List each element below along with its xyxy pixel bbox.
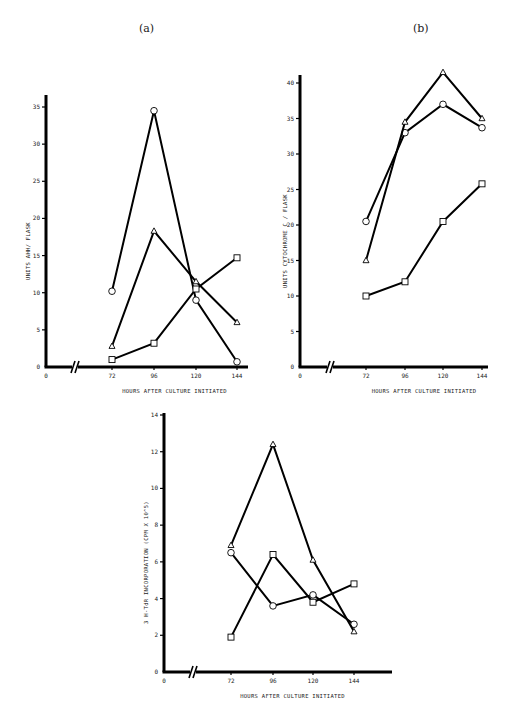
x-tick-label: 0: [298, 372, 302, 379]
square-marker-icon: [193, 286, 199, 292]
figure-canvas: 0510152025303507296120144HOURS AFTER CUL…: [0, 0, 508, 724]
x-axis-title: HOURS AFTER CULTURE INITIATED: [122, 388, 227, 394]
y-tick-label: 10: [287, 292, 295, 299]
y-tick-label: 8: [154, 521, 158, 528]
y-tick-label: 35: [33, 103, 41, 110]
circle-marker-icon: [234, 359, 241, 366]
square-marker-icon: [479, 181, 485, 187]
y-tick-label: 5: [290, 328, 294, 335]
y-tick-label: 12: [151, 448, 159, 455]
triangle-marker-icon: [440, 69, 446, 74]
y-tick-label: 0: [36, 363, 40, 370]
triangle-marker-icon: [310, 557, 316, 562]
x-tick-label: 72: [227, 677, 235, 684]
y-tick-label: 6: [154, 558, 158, 565]
x-axis-title: HOURS AFTER CULTURE INITIATED: [372, 388, 477, 394]
y-tick-label: 5: [36, 326, 40, 333]
square-marker-icon: [310, 599, 316, 605]
y-tick-label: 0: [290, 363, 294, 370]
triangle-marker-icon: [270, 441, 276, 446]
circle-marker-icon: [151, 107, 158, 114]
y-axis-title: UNITS AHH/ FLASK: [25, 222, 31, 280]
triangle-marker-icon: [228, 542, 234, 547]
square-marker-icon: [351, 581, 357, 587]
y-tick-label: 14: [151, 411, 159, 418]
y-tick-label: 10: [151, 484, 159, 491]
y-tick-label: 10: [33, 289, 41, 296]
y-tick-label: 25: [287, 186, 295, 193]
circle-marker-icon: [440, 101, 447, 108]
y-tick-label: 2: [154, 631, 158, 638]
chart-panel-2: 051015202530354007296120144HOURS AFTER C…: [282, 69, 488, 394]
square-marker-icon: [402, 279, 408, 285]
x-tick-label: 144: [477, 372, 488, 379]
y-axis-title: 3 H-TdR INCORPORATION (CPM X 10^5): [143, 501, 149, 624]
square-marker-icon: [109, 357, 115, 363]
x-tick-label: 120: [308, 677, 319, 684]
y-tick-label: 30: [287, 150, 295, 157]
x-tick-label: 96: [269, 677, 277, 684]
y-tick-label: 30: [33, 140, 41, 147]
x-axis-title: HOURS AFTER CULTURE INITIATED: [240, 693, 345, 699]
x-tick-label: 72: [362, 372, 370, 379]
circle-marker-icon: [270, 603, 277, 610]
series-line-circle: [231, 553, 354, 625]
y-tick-label: 35: [287, 115, 295, 122]
series-line-triangle: [231, 444, 354, 631]
x-tick-label: 0: [162, 677, 166, 684]
series-line-square: [112, 258, 237, 360]
series-line-circle: [112, 111, 237, 362]
triangle-marker-icon: [109, 343, 115, 348]
x-tick-label: 144: [232, 372, 243, 379]
square-marker-icon: [228, 634, 234, 640]
triangle-marker-icon: [151, 228, 157, 233]
x-tick-label: 120: [438, 372, 449, 379]
series-line-circle: [366, 104, 482, 221]
circle-marker-icon: [363, 218, 370, 225]
y-axis-title: UNITS CYTOCHROME C / FLASK: [282, 194, 288, 288]
y-tick-label: 4: [154, 595, 158, 602]
chart-panel-1: 0510152025303507296120144HOURS AFTER CUL…: [25, 95, 248, 394]
y-tick-label: 0: [154, 668, 158, 675]
circle-marker-icon: [479, 124, 486, 131]
x-tick-label: 72: [108, 372, 116, 379]
x-tick-label: 0: [44, 372, 48, 379]
series-line-triangle: [112, 231, 237, 346]
y-tick-label: 40: [287, 79, 295, 86]
triangle-marker-icon: [363, 257, 369, 262]
x-tick-label: 144: [349, 677, 360, 684]
circle-marker-icon: [193, 297, 200, 304]
circle-marker-icon: [310, 592, 317, 599]
series-line-square: [231, 555, 354, 638]
square-marker-icon: [270, 552, 276, 558]
y-tick-label: 15: [33, 252, 41, 259]
y-tick-label: 20: [33, 214, 41, 221]
circle-marker-icon: [109, 288, 116, 295]
chart-panel-3: 0246810121407296120144HOURS AFTER CULTUR…: [143, 411, 392, 699]
circle-marker-icon: [228, 549, 235, 556]
square-marker-icon: [440, 218, 446, 224]
x-tick-label: 96: [150, 372, 158, 379]
square-marker-icon: [234, 255, 240, 261]
square-marker-icon: [151, 340, 157, 346]
y-tick-label: 25: [33, 177, 41, 184]
x-tick-label: 96: [401, 372, 409, 379]
x-tick-label: 120: [191, 372, 202, 379]
series-line-triangle: [366, 72, 482, 260]
square-marker-icon: [363, 293, 369, 299]
